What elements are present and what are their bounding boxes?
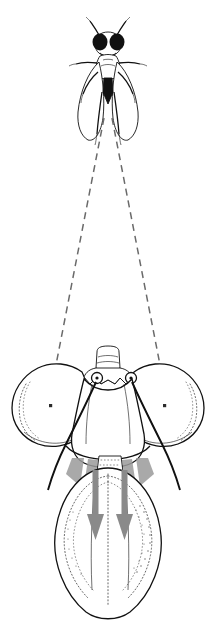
face-outline <box>72 379 145 468</box>
right-eye-facet-spot <box>163 404 166 407</box>
left-eye-facet-spot <box>49 404 52 407</box>
proboscis <box>55 468 162 619</box>
prey-fly-left-eye <box>93 34 108 51</box>
figure-root <box>0 0 216 640</box>
prey-fly-right-eye <box>110 34 125 51</box>
illustration-canvas <box>0 0 216 640</box>
vertex-plate <box>96 346 120 370</box>
